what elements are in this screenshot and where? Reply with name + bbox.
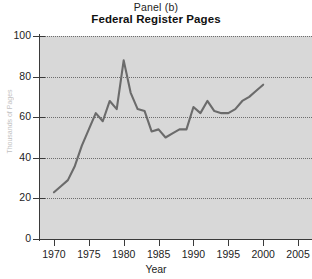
x-tick-1985 [159, 239, 160, 246]
y-tick-20 [33, 198, 45, 199]
y-tick-0 [33, 239, 45, 240]
x-tick-label-2005: 2005 [278, 248, 312, 260]
x-axis-spine [39, 239, 312, 240]
chart-title: Federal Register Pages [0, 13, 312, 25]
x-tick-2000 [263, 239, 264, 246]
y-tick-label-0: 0 [1, 232, 31, 244]
data-series-line [40, 36, 312, 239]
x-tick-1980 [124, 239, 125, 246]
plot-inner [40, 36, 312, 239]
x-tick-2005 [298, 239, 299, 246]
y-axis-spine [39, 34, 40, 241]
y-tick-label-100: 100 [1, 29, 31, 41]
plot-area [40, 36, 312, 239]
x-tick-1995 [228, 239, 229, 246]
chart-figure: Panel (b) Federal Register Pages Thousan… [0, 0, 312, 279]
x-tick-1990 [193, 239, 194, 246]
x-tick-1975 [89, 239, 90, 246]
y-tick-40 [33, 158, 45, 159]
y-tick-label-20: 20 [1, 191, 31, 203]
panel-label: Panel (b) [0, 1, 312, 13]
x-axis-title: Year [0, 263, 312, 275]
y-tick-100 [33, 36, 45, 37]
y-tick-80 [33, 77, 45, 78]
y-tick-60 [33, 117, 45, 118]
y-tick-label-40: 40 [1, 151, 31, 163]
y-tick-label-80: 80 [1, 70, 31, 82]
x-tick-1970 [54, 239, 55, 246]
y-tick-label-60: 60 [1, 110, 31, 122]
